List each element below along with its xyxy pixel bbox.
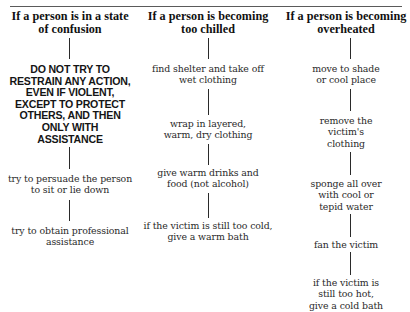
top-rule	[10, 6, 402, 7]
header-line: overheated	[282, 23, 410, 36]
header-line: of confusion	[0, 23, 140, 36]
step-line: food (not alcohol)	[138, 178, 278, 189]
step: try to obtain professional assistance	[0, 225, 140, 248]
step-line: clothing	[282, 138, 410, 149]
step-line: tepid water	[282, 201, 410, 212]
step: if the victim is still too cold, give a …	[138, 220, 278, 243]
step-line: give a warm bath	[138, 231, 278, 242]
step: try to persuade the person to sit or lie…	[0, 173, 140, 196]
step-line: move to shade	[282, 63, 410, 74]
column-header: If a person is becoming too chilled	[138, 10, 278, 36]
step-line: sponge all over	[282, 178, 410, 189]
column-header: If a person is becoming overheated	[282, 10, 410, 36]
connector-line	[69, 38, 70, 59]
step: move to shade or cool place	[282, 63, 410, 86]
step: remove the victim's clothing	[282, 115, 410, 149]
step: fan the victim	[282, 239, 410, 250]
connector-line	[208, 38, 209, 59]
connector-line	[69, 200, 70, 221]
warning-line: DO NOT TRY TO	[0, 64, 140, 76]
step-line: to sit or lie down	[0, 184, 140, 195]
connector-line	[350, 252, 351, 275]
step-line: give a cold bath	[282, 300, 410, 311]
step-line: give warm drinks and	[138, 167, 278, 178]
step-line: victim's	[282, 126, 410, 137]
step-line: assistance	[0, 236, 140, 247]
step-line: wrap in layered,	[138, 118, 278, 129]
step-line: if the victim is	[282, 277, 410, 288]
step-line: with cool or	[282, 189, 410, 200]
column-header: If a person is in a state of confusion	[0, 10, 140, 36]
connector-line	[208, 89, 209, 115]
step: if the victim is still too hot, give a c…	[282, 277, 410, 311]
connector-line	[69, 147, 70, 169]
step-line: wet clothing	[138, 74, 278, 85]
connector-line	[350, 38, 351, 59]
warning-line: ONLY WITH	[0, 122, 140, 134]
connector-line	[208, 193, 209, 218]
connector-line	[350, 214, 351, 237]
step-line: try to persuade the person	[0, 173, 140, 184]
step-line: if the victim is still too cold,	[138, 220, 278, 231]
step-line: remove the	[282, 115, 410, 126]
connector-line	[208, 144, 209, 165]
step-line: find shelter and take off	[138, 63, 278, 74]
step-line: still too hot,	[282, 288, 410, 299]
step-line: warm, dry clothing	[138, 129, 278, 140]
warning-line: ASSISTANCE	[0, 134, 140, 146]
step-line: or cool place	[282, 74, 410, 85]
connector-line	[350, 89, 351, 111]
header-line: too chilled	[138, 23, 278, 36]
step: sponge all over with cool or tepid water	[282, 178, 410, 212]
connector-line	[350, 152, 351, 175]
step: give warm drinks and food (not alcohol)	[138, 167, 278, 190]
warning-block: DO NOT TRY TO RESTRAIN ANY ACTION, EVEN …	[0, 64, 140, 145]
step: wrap in layered, warm, dry clothing	[138, 118, 278, 141]
step: find shelter and take off wet clothing	[138, 63, 278, 86]
step-line: try to obtain professional	[0, 225, 140, 236]
step-line: fan the victim	[282, 239, 410, 250]
